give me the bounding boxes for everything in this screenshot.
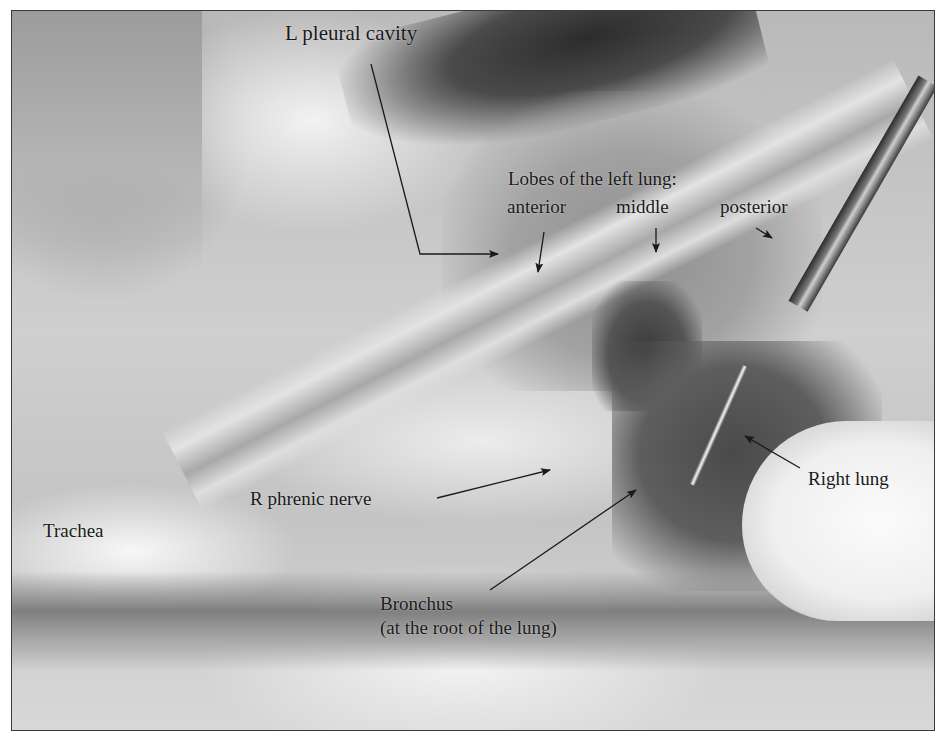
label-lobe-anterior: anterior [507, 196, 566, 218]
label-lobe-posterior: posterior [720, 196, 788, 218]
label-trachea: Trachea [43, 520, 104, 542]
tissue-left [12, 11, 202, 271]
label-lobes-heading: Lobes of the left lung: [508, 168, 677, 190]
label-right-lung: Right lung [808, 468, 889, 490]
label-lobe-middle: middle [616, 196, 669, 218]
label-r-phrenic-nerve: R phrenic nerve [250, 488, 371, 510]
label-bronchus-note: (at the root of the lung) [380, 617, 557, 639]
label-l-pleural-cavity: L pleural cavity [285, 22, 417, 44]
label-bronchus: Bronchus [380, 593, 453, 615]
